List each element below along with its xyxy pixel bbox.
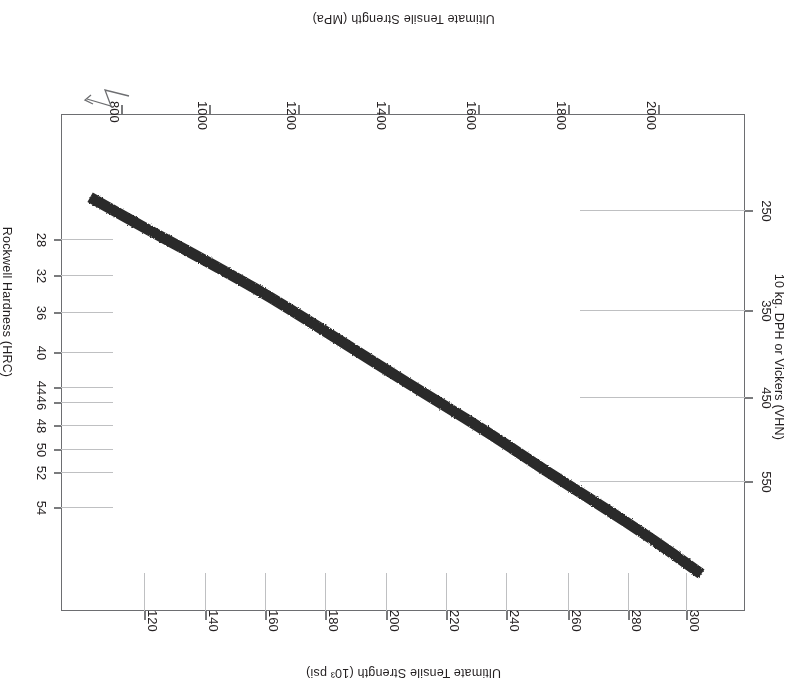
top-axis-tick-label: 120 bbox=[145, 610, 160, 632]
axis-break-icon bbox=[67, 82, 131, 116]
left-axis-title: 10 kg. DPH or Vickers (VHN) bbox=[772, 274, 786, 440]
right-axis-tick bbox=[54, 425, 61, 426]
curve-layer bbox=[61, 114, 745, 611]
right-axis-tick bbox=[54, 507, 61, 508]
right-axis-tick-label: 46 bbox=[34, 396, 49, 410]
top-axis-tick-label: 200 bbox=[387, 610, 402, 632]
right-axis-tick-label: 52 bbox=[34, 466, 49, 480]
right-axis-tick bbox=[54, 275, 61, 276]
left-axis-tick-label: 550 bbox=[759, 471, 774, 493]
top-axis-tick-label: 260 bbox=[569, 610, 584, 632]
right-axis-tick-label: 48 bbox=[34, 419, 49, 433]
right-axis-tick-label: 54 bbox=[34, 501, 49, 515]
top-axis-tick-label: 300 bbox=[687, 610, 702, 632]
right-axis-tick bbox=[54, 472, 61, 473]
curve-svg bbox=[61, 114, 745, 611]
right-axis-tick bbox=[54, 239, 61, 240]
left-axis-tick bbox=[745, 210, 753, 211]
chart-canvas: 3002802602402202001801601401202000180016… bbox=[0, 0, 807, 688]
top-axis-tick-label: 280 bbox=[629, 610, 644, 632]
top-axis-tick-label: 220 bbox=[447, 610, 462, 632]
top-axis-title: Ultimate Tensile Strength (10³ psi) bbox=[0, 666, 807, 680]
left-axis-tick-label: 250 bbox=[759, 200, 774, 222]
right-axis-tick-label: 44 bbox=[34, 381, 49, 395]
right-axis-tick-label: 28 bbox=[34, 233, 49, 247]
bottom-axis-title: Ultimate Tensile Strength (MPa) bbox=[0, 12, 807, 26]
right-axis-tick bbox=[54, 387, 61, 388]
right-axis-tick-label: 36 bbox=[34, 306, 49, 320]
hardness-tensile-curve bbox=[90, 197, 701, 574]
left-axis-tick bbox=[745, 397, 753, 398]
top-axis-tick-label: 180 bbox=[326, 610, 341, 632]
top-axis-tick-label: 140 bbox=[206, 610, 221, 632]
right-axis-tick-label: 40 bbox=[34, 346, 49, 360]
figure-rotation-wrapper: 3002802602402202001801601401202000180016… bbox=[0, 0, 807, 688]
top-axis-tick-label: 160 bbox=[266, 610, 281, 632]
right-axis-tick bbox=[54, 312, 61, 313]
right-axis-tick bbox=[54, 352, 61, 353]
left-axis-tick bbox=[745, 481, 753, 482]
right-axis-title: Rockwell Hardness (HRC) bbox=[0, 227, 14, 377]
right-axis-tick bbox=[54, 402, 61, 403]
right-axis-tick-label: 50 bbox=[34, 443, 49, 457]
right-axis-tick-label: 32 bbox=[34, 269, 49, 283]
right-axis-tick bbox=[54, 449, 61, 450]
top-axis-tick-label: 240 bbox=[507, 610, 522, 632]
left-axis-tick bbox=[745, 310, 753, 311]
